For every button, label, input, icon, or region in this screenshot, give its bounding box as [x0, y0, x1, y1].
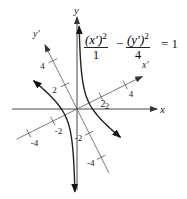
equation-term1: (x′)2 1 [84, 29, 108, 62]
xprime-tick-label: -2 [55, 126, 63, 136]
x-axis-label: x [159, 103, 165, 115]
xprime-tick [27, 129, 31, 137]
hyperbola-left-branch-lower [65, 115, 75, 192]
yprime-tick [61, 83, 69, 87]
xprime-tick [123, 81, 127, 89]
term2-denominator: 4 [135, 48, 141, 62]
xprime-tick [51, 117, 55, 125]
yprime-tick [49, 59, 57, 63]
yprime-tick-label: 2 [52, 85, 57, 95]
yprime-tick-label: -4 [87, 158, 95, 168]
term2-numerator: (y′)2 [126, 29, 150, 48]
equation-term2: (y′)2 4 [126, 29, 150, 62]
xprime-tick-label: -4 [31, 138, 39, 148]
yprime-tick [97, 155, 105, 159]
xprime-axis [17, 76, 143, 139]
term1-denominator: 1 [93, 48, 99, 62]
term1-numerator: (x′)2 [84, 29, 108, 48]
y-axis-label: y [73, 4, 79, 16]
xprime-tick-label: 2 [105, 101, 110, 111]
yprime-tick [85, 131, 93, 135]
yprime-axis-label: y′ [32, 28, 40, 39]
xprime-tick-label: 4 [129, 89, 134, 99]
equation-minus: − [116, 36, 123, 52]
yprime-tick-label: 4 [40, 61, 45, 71]
hyperbola-left-branch-upper [34, 81, 65, 115]
yprime-tick-label: -2 [75, 133, 83, 143]
equation-equals: = 1 [161, 36, 178, 52]
